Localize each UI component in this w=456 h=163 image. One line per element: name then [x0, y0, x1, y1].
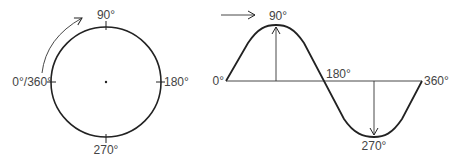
center-dot [105, 81, 107, 83]
circle-label-90: 90° [97, 8, 115, 22]
diagram-canvas: 90° 180° 270° 0°/360° 0° 90° 180° 270° 3… [0, 0, 456, 163]
sine-label-360: 360° [424, 74, 449, 88]
sine-diagram: 0° 90° 180° 270° 360° [213, 9, 450, 153]
circle-diagram: 90° 180° 270° 0°/360° [12, 8, 189, 157]
sine-label-0: 0° [213, 74, 225, 88]
sine-label-180: 180° [326, 67, 351, 81]
rotation-arrow-icon [42, 18, 82, 73]
sine-label-270: 270° [362, 139, 387, 153]
sine-label-90: 90° [269, 9, 287, 23]
circle-label-270: 270° [94, 143, 119, 157]
circle-label-180: 180° [164, 75, 189, 89]
circle-label-0-360: 0°/360° [12, 75, 52, 89]
